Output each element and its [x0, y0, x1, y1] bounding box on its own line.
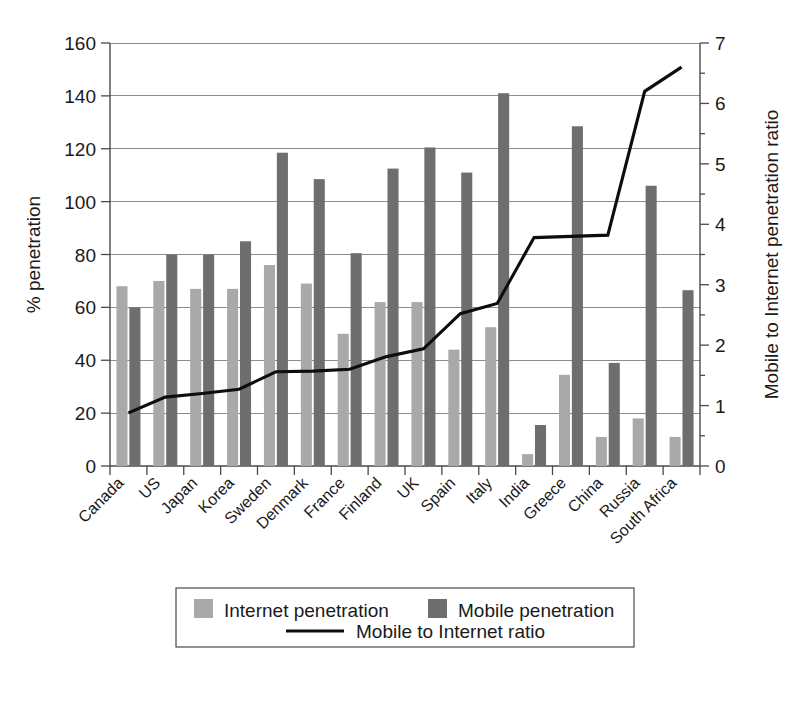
- bar-mobile: [387, 169, 398, 466]
- x-category-label: Japan: [157, 474, 200, 517]
- bar-internet: [301, 284, 312, 466]
- legend-swatch-internet: [194, 599, 213, 618]
- bar-internet: [633, 418, 644, 466]
- bar-mobile: [682, 290, 693, 466]
- bar-internet: [411, 302, 422, 466]
- bar-internet: [153, 281, 164, 466]
- x-category-label: US: [136, 474, 164, 502]
- bar-mobile: [572, 126, 583, 466]
- x-category-label: Spain: [417, 474, 458, 515]
- y2-tick-label: 1: [715, 396, 726, 417]
- bar-internet: [485, 327, 496, 466]
- bar-internet: [190, 289, 201, 466]
- y-tick-label: 60: [75, 297, 96, 318]
- bar-mobile: [277, 153, 288, 466]
- y2-tick-label: 5: [715, 154, 726, 175]
- bar-internet: [596, 437, 607, 466]
- bar-mobile: [203, 255, 214, 467]
- bar-internet: [338, 334, 349, 466]
- y-tick-label: 0: [85, 456, 96, 477]
- y-tick-label: 20: [75, 403, 96, 424]
- x-category-label: Italy: [463, 474, 496, 507]
- y2-tick-label: 3: [715, 275, 726, 296]
- y-tick-label: 140: [64, 86, 96, 107]
- bar-mobile: [314, 179, 325, 466]
- y2-tick-label: 4: [715, 214, 726, 235]
- bar-internet: [375, 302, 386, 466]
- bar-mobile: [166, 255, 177, 467]
- y2-tick-label: 6: [715, 93, 726, 114]
- bar-mobile: [609, 363, 620, 466]
- bar-internet: [227, 289, 238, 466]
- legend-label-ratio: Mobile to Internet ratio: [356, 621, 545, 642]
- y2-tick-label: 0: [715, 456, 726, 477]
- bar-mobile: [646, 186, 657, 466]
- bar-mobile: [351, 253, 362, 466]
- bar-mobile: [461, 173, 472, 466]
- bar-mobile: [498, 93, 509, 466]
- bar-internet: [116, 286, 127, 466]
- y-axis-title: % penetration: [23, 196, 44, 313]
- bar-mobile: [535, 425, 546, 466]
- bar-internet: [522, 454, 533, 466]
- chart-container: 02040608010012014016001234567CanadaUSJap…: [0, 0, 809, 704]
- y-tick-label: 40: [75, 350, 96, 371]
- y-tick-label: 100: [64, 192, 96, 213]
- legend-label-mobile: Mobile penetration: [458, 600, 614, 621]
- bar-mobile: [240, 241, 251, 466]
- y2-tick-label: 2: [715, 335, 726, 356]
- bar-mobile: [424, 147, 435, 466]
- legend-swatch-mobile: [428, 599, 447, 618]
- x-category-label: Canada: [75, 474, 127, 526]
- y-tick-label: 120: [64, 139, 96, 160]
- x-category-label: UK: [394, 474, 422, 502]
- bar-internet: [264, 265, 275, 466]
- bar-internet: [670, 437, 681, 466]
- penetration-chart: 02040608010012014016001234567CanadaUSJap…: [0, 0, 809, 704]
- y-tick-label: 80: [75, 245, 96, 266]
- y2-axis-title: Mobile to Internet penetration ratio: [761, 110, 782, 399]
- bar-mobile: [129, 307, 140, 466]
- legend-label-internet: Internet penetration: [224, 600, 389, 621]
- bar-internet: [448, 350, 459, 466]
- bar-internet: [559, 375, 570, 466]
- y-tick-label: 160: [64, 33, 96, 54]
- y2-tick-label: 7: [715, 33, 726, 54]
